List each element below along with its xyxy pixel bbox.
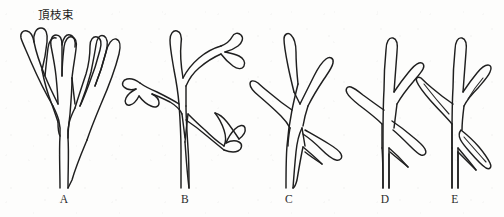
caption-letter-b: B [174,193,196,205]
figure-e-webbing [416,38,491,188]
figure-c-reduction [250,34,342,188]
figure-a-dichotomous-branching [21,28,120,188]
caption-letter-c: C [278,193,300,205]
caption-letter-d: D [374,193,396,205]
figure-d-planation [346,38,426,188]
apical-branch-bundle-label: 頂枝束 [38,6,74,22]
caption-letter-a: A [53,193,75,205]
figure-b-overtopping [123,31,246,188]
caption-letter-e: E [444,193,466,205]
telome-theory-diagram [0,0,504,217]
